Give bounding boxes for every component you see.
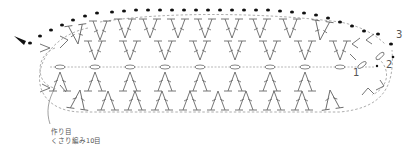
legend-leader-line [48,88,55,124]
foundation-note-line2: くさり編み10目 [51,137,101,146]
row-label-2: 2 [386,60,392,70]
row-label-1: 1 [353,68,359,78]
row2-upper-stitches [64,19,333,46]
row-label-3: 3 [396,30,402,40]
start-arrow-icon [14,36,26,45]
row2-lower-stitches [66,88,343,110]
turning-chevrons [40,34,384,95]
right-dashed-loop [372,58,387,95]
foundation-note-line1: 作り目 [51,128,101,137]
foundation-chains [55,51,385,69]
row1-upper-stitches [84,41,351,60]
row1-lower-stitches [49,72,316,91]
foundation-note: 作り目 くさり編み10目 [51,128,101,146]
inner-dashed-loop [40,48,55,88]
